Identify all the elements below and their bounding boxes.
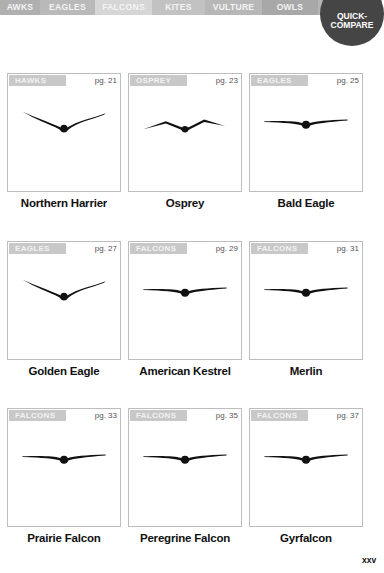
tab-falcons[interactable]: FALCONS [95, 0, 152, 15]
species-name: Bald Eagle [249, 197, 363, 209]
species-name: Gyrfalcon [249, 532, 363, 544]
category-label: EAGLES [251, 75, 308, 86]
species-name: Osprey [128, 197, 242, 209]
category-label: FALCONS [130, 243, 187, 254]
page-reference[interactable]: pg. 27 [95, 243, 117, 254]
species-name: Merlin [249, 365, 363, 377]
species-card[interactable]: FALCONSpg. 31 [249, 241, 363, 360]
page-reference[interactable]: pg. 31 [337, 243, 359, 254]
species-name: Northern Harrier [7, 197, 121, 209]
flight-silhouette-icon [129, 270, 241, 310]
species-card[interactable]: FALCONSpg. 33 [7, 408, 121, 527]
category-label: FALCONS [251, 243, 308, 254]
category-label: OSPREY [130, 75, 187, 86]
tab-kites[interactable]: KITES [152, 0, 205, 15]
tab-eagles[interactable]: EAGLES [40, 0, 95, 15]
species-name: American Kestrel [128, 365, 242, 377]
category-label: EAGLES [9, 243, 66, 254]
flight-silhouette-icon [250, 102, 362, 142]
category-label: FALCONS [9, 410, 66, 421]
page-reference[interactable]: pg. 23 [216, 75, 238, 86]
flight-silhouette-icon [8, 270, 120, 310]
page-number: xxv [362, 555, 376, 565]
quick-compare-button[interactable]: QUICK- COMPARE [320, 0, 384, 46]
page-reference[interactable]: pg. 29 [216, 243, 238, 254]
species-card[interactable]: EAGLESpg. 25 [249, 73, 363, 192]
species-card[interactable]: HAWKSpg. 21 [7, 73, 121, 192]
page-reference[interactable]: pg. 21 [95, 75, 117, 86]
flight-silhouette-icon [8, 102, 120, 142]
species-card[interactable]: FALCONSpg. 35 [128, 408, 242, 527]
flight-silhouette-icon [129, 102, 241, 142]
tab-owls[interactable]: OWLS [262, 0, 318, 15]
page-reference[interactable]: pg. 37 [337, 410, 359, 421]
flight-silhouette-icon [250, 270, 362, 310]
page-reference[interactable]: pg. 25 [337, 75, 359, 86]
tab-awks[interactable]: AWKS [0, 0, 40, 15]
species-card[interactable]: EAGLESpg. 27 [7, 241, 121, 360]
page-reference[interactable]: pg. 33 [95, 410, 117, 421]
species-name: Prairie Falcon [7, 532, 121, 544]
page-reference[interactable]: pg. 35 [216, 410, 238, 421]
species-card[interactable]: FALCONSpg. 37 [249, 408, 363, 527]
tab-vulture[interactable]: VULTURE [205, 0, 262, 15]
flight-silhouette-icon [8, 437, 120, 477]
species-name: Peregrine Falcon [128, 532, 242, 544]
species-card[interactable]: OSPREYpg. 23 [128, 73, 242, 192]
category-label: FALCONS [130, 410, 187, 421]
category-label: FALCONS [251, 410, 308, 421]
flight-silhouette-icon [129, 437, 241, 477]
flight-silhouette-icon [250, 437, 362, 477]
category-label: HAWKS [9, 75, 66, 86]
quick-compare-label-line2: COMPARE [331, 21, 374, 30]
species-card[interactable]: FALCONSpg. 29 [128, 241, 242, 360]
species-name: Golden Eagle [7, 365, 121, 377]
